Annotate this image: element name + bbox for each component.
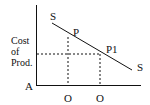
- curve-end-label: S: [137, 61, 143, 73]
- point-label-p1: P1: [106, 43, 118, 55]
- origin-label: A: [25, 80, 33, 92]
- y-axis-label-line-3: Prod.: [11, 57, 32, 68]
- supply-curve-line: [52, 23, 132, 70]
- y-axis-label-line-2: of: [11, 46, 20, 57]
- point-label-p: P: [73, 26, 79, 38]
- x-tick-label-1: O: [64, 92, 72, 104]
- supply-diagram: Cost of Prod. A O O S S P P1: [0, 0, 150, 105]
- curve-start-label: S: [50, 10, 56, 22]
- y-axis-label-line-1: Cost: [11, 35, 30, 46]
- x-tick-label-2: O: [96, 92, 104, 104]
